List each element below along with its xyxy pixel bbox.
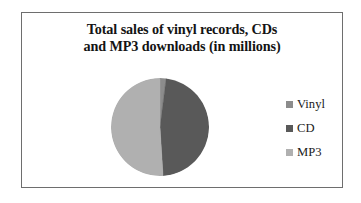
legend-swatch-vinyl [286,101,293,108]
chart-legend: Vinyl CD MP3 [286,92,358,164]
legend-item-vinyl[interactable]: Vinyl [286,92,358,116]
plot-area [22,56,272,188]
pie-chart [111,78,209,176]
legend-item-mp3[interactable]: MP3 [286,140,358,164]
legend-label-cd: CD [297,122,315,135]
legend-item-cd[interactable]: CD [286,116,358,140]
pie-slice-mp3[interactable] [111,78,163,176]
chart-frame: Total sales of vinyl records, CDs and MP… [21,12,343,188]
legend-swatch-cd [286,125,293,132]
pie-slice-cd[interactable] [160,78,209,176]
chart-title-line-2: and MP3 downloads (in millions) [22,38,342,55]
pie-svg [111,78,209,176]
legend-label-mp3: MP3 [297,146,322,159]
chart-title: Total sales of vinyl records, CDs and MP… [22,21,342,55]
chart-title-line-1: Total sales of vinyl records, CDs [22,21,342,38]
legend-swatch-mp3 [286,149,293,156]
legend-label-vinyl: Vinyl [297,98,325,111]
pie-slice-group [111,78,209,176]
